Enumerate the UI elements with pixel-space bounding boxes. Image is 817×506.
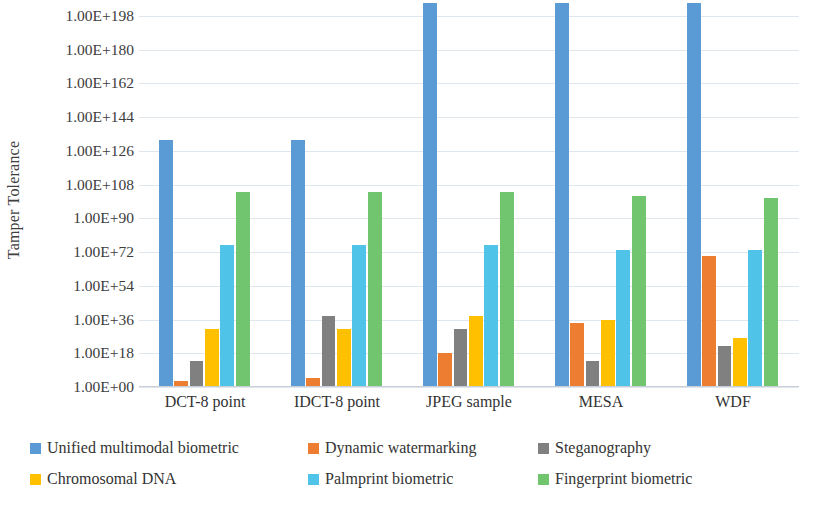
bar-group (687, 16, 779, 387)
legend-item[interactable]: Fingerprint biometric (538, 471, 692, 487)
y-axis-tick-label: 1.00E+108 (22, 177, 134, 193)
bar[interactable] (469, 316, 483, 387)
y-axis-tick-label: 1.00E+198 (22, 8, 134, 24)
y-axis-tick-label: 1.00E+00 (22, 379, 134, 395)
legend-label: Chromosomal DNA (47, 471, 176, 487)
bar[interactable] (205, 329, 219, 387)
y-axis-tick-label: 1.00E+144 (22, 109, 134, 125)
bar[interactable] (555, 3, 569, 387)
legend-item[interactable]: Unified multimodal biometric (30, 440, 239, 456)
bar[interactable] (220, 245, 234, 387)
legend-label: Dynamic watermarking (325, 440, 477, 456)
bar[interactable] (368, 192, 382, 387)
bar[interactable] (718, 346, 732, 387)
y-axis-tick-label: 1.00E+36 (22, 312, 134, 328)
bar[interactable] (337, 329, 351, 387)
legend-swatch-icon (538, 474, 549, 485)
bar[interactable] (632, 196, 646, 387)
bar[interactable] (500, 192, 514, 387)
bar[interactable] (733, 338, 747, 387)
y-axis-tick-label: 1.00E+54 (22, 278, 134, 294)
bar-group (159, 16, 251, 387)
legend-item[interactable]: Palmprint biometric (308, 471, 453, 487)
legend-item[interactable]: Dynamic watermarking (308, 440, 477, 456)
bar[interactable] (601, 320, 615, 387)
x-axis-tick-labels: DCT-8 pointIDCT-8 pointJPEG sampleMESAWD… (139, 393, 799, 423)
bar[interactable] (159, 140, 173, 387)
x-axis-tick-label: WDF (667, 393, 799, 411)
bar[interactable] (438, 353, 452, 387)
legend-swatch-icon (308, 474, 319, 485)
bar[interactable] (291, 140, 305, 387)
x-axis-tick-label: DCT-8 point (139, 393, 271, 411)
legend-item[interactable]: Chromosomal DNA (30, 471, 176, 487)
legend-label: Steganography (555, 440, 651, 456)
bar[interactable] (423, 3, 437, 387)
x-axis-tick-label: IDCT-8 point (271, 393, 403, 411)
y-axis-tick-label: 1.00E+126 (22, 143, 134, 159)
bar[interactable] (352, 245, 366, 387)
gridline (139, 387, 799, 388)
legend-label: Unified multimodal biometric (47, 440, 239, 456)
bar[interactable] (454, 329, 468, 387)
plot-area (139, 16, 799, 387)
bar-chart: Tamper Tolerance 1.00E+1981.00E+1801.00E… (0, 0, 817, 506)
y-axis-tick-label: 1.00E+90 (22, 211, 134, 227)
y-axis-tick-label: 1.00E+162 (22, 76, 134, 92)
bar-group (555, 16, 647, 387)
bar[interactable] (190, 361, 204, 387)
legend-swatch-icon (538, 443, 549, 454)
bar-group (423, 16, 515, 387)
bar[interactable] (687, 3, 701, 387)
bar[interactable] (702, 256, 716, 387)
y-axis-title-text: Tamper Tolerance (5, 141, 23, 259)
chart-legend: Unified multimodal biometricDynamic wate… (30, 440, 790, 502)
x-axis-tick-label: MESA (535, 393, 667, 411)
bar-group (291, 16, 383, 387)
bar[interactable] (484, 245, 498, 387)
y-axis-tick-labels: 1.00E+1981.00E+1801.00E+1621.00E+1441.00… (22, 16, 134, 387)
y-axis-tick-label: 1.00E+180 (22, 42, 134, 58)
x-axis-tick-label: JPEG sample (403, 393, 535, 411)
bar[interactable] (570, 323, 584, 387)
bar[interactable] (616, 250, 630, 387)
bar[interactable] (764, 198, 778, 387)
y-axis-tick-label: 1.00E+72 (22, 244, 134, 260)
legend-swatch-icon (30, 443, 41, 454)
bar[interactable] (748, 250, 762, 387)
bar[interactable] (586, 361, 600, 387)
x-axis-line (139, 386, 799, 387)
y-axis-tick-label: 1.00E+18 (22, 346, 134, 362)
legend-item[interactable]: Steganography (538, 440, 651, 456)
legend-swatch-icon (308, 443, 319, 454)
bars-layer (139, 16, 799, 387)
legend-swatch-icon (30, 474, 41, 485)
legend-label: Palmprint biometric (325, 471, 453, 487)
bar[interactable] (236, 192, 250, 387)
bar[interactable] (322, 316, 336, 387)
legend-label: Fingerprint biometric (555, 471, 692, 487)
